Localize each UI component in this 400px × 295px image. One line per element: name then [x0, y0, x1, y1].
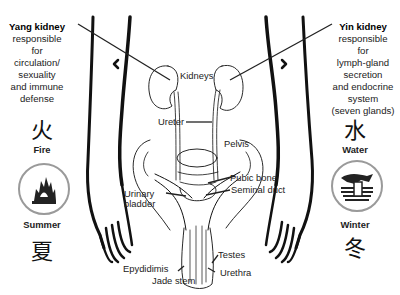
label-pelvis: Pelvis [224, 139, 249, 149]
yin-kidney-title: Yin kidney [326, 21, 400, 33]
yin-kidney-description: Yin kidney responsible for lymph-gland s… [326, 21, 400, 117]
label-epydidimis: Epydidimis [123, 264, 168, 274]
label-urinary-bladder: Urinary bladder [124, 189, 155, 209]
summer-label: Summer [12, 219, 72, 230]
right-arm-outline [296, 17, 313, 248]
left-arm-outline [88, 17, 105, 248]
yang-kidney-title: Yang kidney [6, 21, 68, 33]
label-ureter: Ureter [158, 117, 184, 127]
water-character: 水 [335, 120, 375, 142]
label-pubic-bone: Pubic bone [230, 173, 277, 183]
label-urethra: Urethra [220, 268, 251, 278]
leader-yin-kidney [230, 24, 332, 80]
water-icon [331, 160, 383, 212]
fire-label: Fire [12, 144, 72, 155]
fire-character: 火 [22, 120, 62, 142]
winter-label: Winter [325, 219, 385, 230]
label-testes: Testes [218, 250, 245, 260]
yang-kidney-description: Yang kidney responsible for circulation/… [6, 21, 68, 105]
summer-character: 夏 [22, 241, 62, 263]
fire-icon [18, 163, 70, 215]
left-kidney [149, 66, 178, 109]
label-jade-stem: Jade stem [152, 276, 195, 286]
label-seminal-duct: Seminal duct [231, 185, 285, 195]
winter-character: 冬 [335, 238, 375, 260]
label-kidneys: Kidneys [180, 71, 213, 81]
water-label: Water [325, 144, 385, 155]
